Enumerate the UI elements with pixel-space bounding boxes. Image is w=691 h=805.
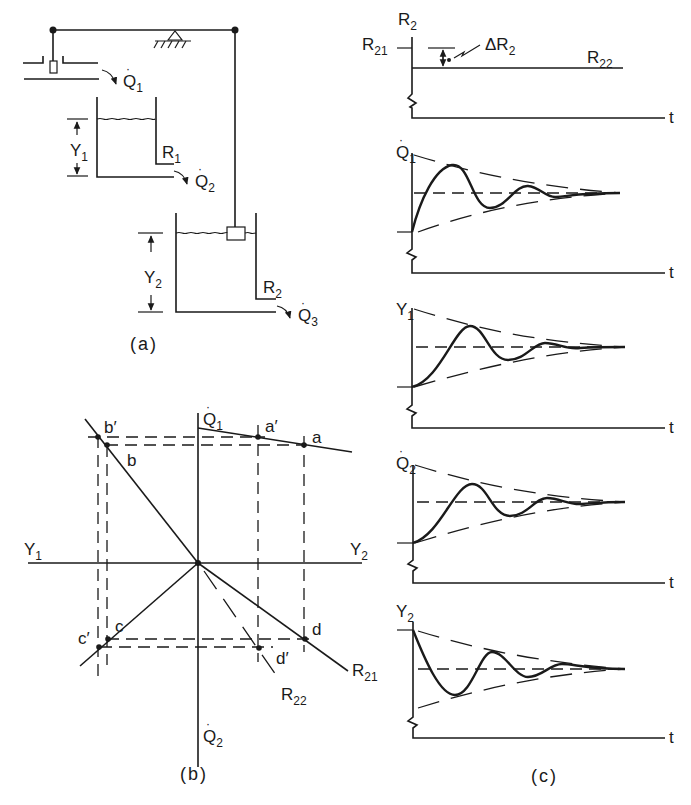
point-d [302,636,308,642]
plot-r2: ΔR2 R2 R21 R22 t [362,10,674,127]
panel-b-phase-plot: Q1 · Q2 · Y1 Y2 a′ a b′ b c c′ [24,400,378,784]
y2-response-curve [413,630,625,695]
float [227,227,245,240]
plot-q2: Q2 · t [396,444,674,592]
plot-y1: Y1 t [396,300,674,437]
label-r2-axis: R2 [398,10,417,33]
axis-label-y1: Y1 [24,540,42,563]
y2-upper-envelope [418,631,625,669]
t-label-5: t [669,728,674,747]
label-d: d [312,620,321,639]
caption-c: (c) [531,766,558,786]
axis-label-y2: Y2 [350,540,368,563]
inlet-pipe-top-right [63,56,98,63]
q1-upper-envelope [414,155,620,193]
point-a-prime [255,434,261,440]
dot-axis-q2: · [206,717,210,731]
q1-response-curve [412,165,620,232]
q2-response-curve [413,484,625,543]
label-y1-axis: Y1 [396,300,414,323]
caption-a: (a) [130,334,158,354]
plot-y2: Y2 t [396,602,674,747]
plot-q1: Q1 · t [396,133,674,282]
label-r21: R21 [352,661,378,684]
t-label-1: t [669,108,674,127]
label-a-prime: a′ [265,417,278,436]
flow-arrow-q2 [174,171,187,184]
dot-c-q2: · [399,444,403,458]
panel-a-tank-system: Q1 · Y1 R1 Q2 · Y2 R2 Q3 · (a) [23,27,318,355]
t-label-2: t [669,263,674,282]
panel-c-time-responses: ΔR2 R2 R21 R22 t Q1 · t Y1 t [362,10,674,786]
delta-leader-dot [447,58,451,62]
point-a [301,442,307,448]
label-y2-axis: Y2 [396,602,414,625]
t-label-3: t [669,418,674,437]
label-delta-r2: ΔR2 [485,35,516,58]
point-c-prime [96,644,102,650]
y2-axes [408,622,665,738]
point-c [105,636,111,642]
flow-arrow-q1 [102,70,116,84]
tank2-wall [176,213,276,312]
line-r21 [198,563,348,671]
label-b: b [127,451,136,470]
label-b-prime: b′ [104,418,117,437]
line-r22 [204,571,278,678]
line-b [85,419,198,563]
y1-axes [407,308,665,428]
diagram-canvas: Q1 · Y1 R1 Q2 · Y2 R2 Q3 · (a) [0,0,691,805]
label-d-prime: d′ [276,649,289,668]
label-r22: R22 [281,685,307,708]
point-b-prime [95,434,101,440]
delta-leader [454,45,480,58]
tank2-water-surface-left [176,233,227,234]
tank2-water-surface-right [245,233,256,234]
flow-arrow-q3 [277,306,290,318]
label-r2: R2 [263,278,282,301]
dot-q2: · [198,162,202,176]
dot-axis-q1: · [206,400,210,414]
y1-upper-envelope [414,309,625,347]
label-c: c [115,617,124,636]
dot-q1: · [126,62,130,76]
label-r21: R21 [362,35,388,58]
label-c-prime: c′ [78,629,90,648]
label-a: a [312,428,322,447]
label-r1: R1 [162,143,181,166]
point-d-prime [256,645,262,651]
dot-c-q1: · [399,133,403,147]
t-label-4: t [669,573,674,592]
q1-axes [407,153,665,273]
r2-axes [408,37,665,118]
q2-upper-envelope [415,465,625,502]
q1-lower-envelope [418,193,620,232]
q2-axes [408,465,665,583]
label-y2: Y2 [144,268,162,291]
tank1-wall [97,97,174,177]
fulcrum-icon [154,31,191,48]
tank1-water-surface [97,119,155,120]
valve-plug [50,61,57,73]
label-y1: Y1 [70,141,88,164]
point-b [104,442,110,448]
caption-b: (b) [180,764,208,784]
inlet-pipe-top-left [23,56,43,63]
dot-q3: · [301,296,305,310]
